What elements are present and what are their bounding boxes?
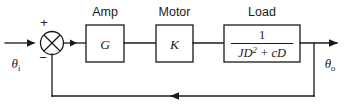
input-signal-label: θi	[12, 56, 21, 73]
block-diagram-canvas: θi + − Amp G Motor K	[0, 0, 354, 110]
block-diagram-svg: θi + − Amp G Motor K	[0, 0, 354, 110]
load-block: 1 JD2 + cD	[224, 25, 300, 62]
feedback-arrowhead	[170, 92, 179, 99]
output-signal-wire	[300, 39, 338, 47]
load-denominator: JD2 + cD	[238, 45, 286, 60]
output-signal-label: θo	[325, 56, 336, 73]
amp-input-arrowhead	[70, 40, 77, 47]
summing-plus-sign: +	[40, 15, 48, 30]
input-arrowhead	[27, 39, 35, 47]
input-signal-wire	[5, 39, 35, 47]
wire-sum-to-amp	[64, 40, 87, 47]
motor-block: K	[156, 25, 193, 62]
amp-block-caption: Amp	[92, 5, 118, 19]
motor-block-label: K	[169, 37, 180, 52]
output-arrowhead	[329, 39, 338, 47]
summing-minus-sign: −	[39, 50, 47, 65]
load-block-caption: Load	[248, 5, 276, 19]
motor-block-caption: Motor	[159, 5, 191, 19]
load-numerator: 1	[259, 28, 265, 42]
amp-block-label: G	[100, 37, 110, 52]
amp-block: G	[86, 25, 124, 62]
